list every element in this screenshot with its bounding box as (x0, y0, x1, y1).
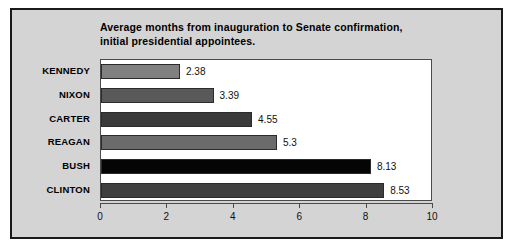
category-label-nixon: NIXON (12, 83, 96, 107)
x-tick (366, 203, 367, 208)
category-label-clinton: CLINTON (12, 177, 96, 201)
x-tick (100, 203, 101, 208)
x-tick-label: 2 (164, 211, 170, 222)
x-tick (299, 203, 300, 208)
x-tick-label: 10 (426, 211, 437, 222)
bar-row: 8.53 (101, 178, 431, 202)
category-label-kennedy: KENNEDY (12, 59, 96, 83)
bar-value-label: 3.39 (220, 90, 239, 101)
chart-title-line-2: initial presidential appointees. (100, 34, 490, 48)
bar-row: 3.39 (101, 84, 431, 108)
x-tick (432, 203, 433, 208)
plot-area: 2.383.394.555.38.138.53 (100, 59, 432, 201)
category-axis-labels: KENNEDY NIXON CARTER REAGAN BUSH CLINTON (12, 59, 96, 201)
bar-clinton (101, 183, 384, 198)
bar-nixon (101, 88, 214, 103)
bar-row: 5.3 (101, 131, 431, 155)
bar-value-label: 8.53 (390, 185, 409, 196)
x-axis-line (100, 203, 432, 204)
bar-kennedy (101, 64, 180, 79)
bar-value-label: 4.55 (258, 114, 277, 125)
bars-container: 2.383.394.555.38.138.53 (101, 60, 431, 200)
chart-title-line-1: Average months from inauguration to Sena… (100, 20, 490, 34)
category-label-carter: CARTER (12, 106, 96, 130)
bar-value-label: 8.13 (377, 161, 396, 172)
x-tick-label: 4 (230, 211, 236, 222)
bar-row: 4.55 (101, 107, 431, 131)
x-tick-label: 8 (363, 211, 369, 222)
bar-bush (101, 159, 371, 174)
category-label-reagan: REAGAN (12, 130, 96, 154)
x-tick-label: 0 (97, 211, 103, 222)
x-tick-label: 6 (296, 211, 302, 222)
x-axis: 0246810 (100, 203, 432, 233)
bar-value-label: 5.3 (283, 137, 297, 148)
x-tick (233, 203, 234, 208)
bar-value-label: 2.38 (186, 66, 205, 77)
category-label-bush: BUSH (12, 154, 96, 178)
x-tick (166, 203, 167, 208)
bar-carter (101, 112, 252, 127)
bar-reagan (101, 135, 277, 150)
chart-title: Average months from inauguration to Sena… (100, 20, 490, 48)
bar-row: 8.13 (101, 155, 431, 179)
chart-figure: Average months from inauguration to Sena… (10, 8, 503, 239)
bar-row: 2.38 (101, 60, 431, 84)
